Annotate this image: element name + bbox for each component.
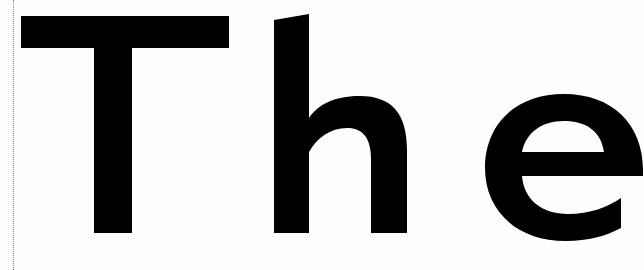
letter-e — [485, 94, 643, 241]
scanned-page: The — [0, 0, 644, 270]
headline-word — [0, 0, 644, 270]
letter-t — [21, 16, 229, 233]
letter-h — [274, 14, 407, 233]
